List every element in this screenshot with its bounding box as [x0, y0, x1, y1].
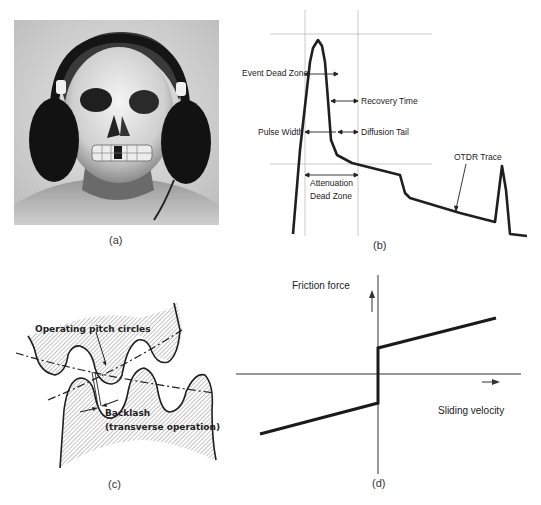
label-dead-zone: Dead Zone: [310, 191, 352, 201]
label-transverse-operation: (transverse operation): [105, 422, 220, 432]
label-otdr-trace: OTDR Trace: [454, 152, 502, 162]
gear-backlash-diagram: Operating pitch circles Backlash (transv…: [0, 260, 230, 505]
friction-chart: Friction force Sliding velocity: [230, 260, 541, 505]
caption-d: (d): [372, 477, 385, 489]
caption-b: (b): [373, 239, 386, 251]
caption-a: (a): [109, 234, 122, 246]
arrow-right-icon: [492, 379, 500, 385]
panel-d: Friction force Sliding velocity: [230, 260, 541, 505]
otdr-grid-lines: [270, 10, 432, 236]
label-sliding-velocity: Sliding velocity: [438, 405, 504, 416]
panel-b: Event Dead Zone Recovery Time Pulse Widt…: [230, 0, 541, 260]
label-pulse-width: Pulse Width: [258, 127, 304, 137]
label-backlash: Backlash: [105, 408, 150, 418]
label-recovery-time: Recovery Time: [361, 96, 418, 106]
otdr-trace-line: [293, 40, 527, 236]
label-friction-force: Friction force: [292, 280, 350, 291]
label-diffusion-tail: Diffusion Tail: [361, 127, 409, 137]
otdr-diagram: Event Dead Zone Recovery Time Pulse Widt…: [230, 0, 541, 260]
caption-c: (c): [108, 478, 121, 490]
upper-gear: [28, 301, 182, 382]
arrow-up-icon: [369, 290, 375, 298]
label-event-dead-zone: Event Dead Zone: [242, 68, 308, 78]
skull-headphones-image: [14, 20, 219, 225]
label-attenuation: Attenuation: [310, 178, 353, 188]
panel-c: Operating pitch circles Backlash (transv…: [0, 260, 230, 505]
label-pitch-circles: Operating pitch circles: [35, 324, 151, 334]
panel-a: [14, 20, 219, 225]
